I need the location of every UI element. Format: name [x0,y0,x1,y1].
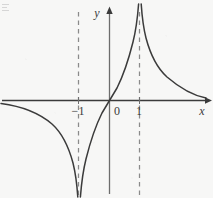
function-graph-figure: y x −1 0 1 [0,0,213,198]
origin-label: 0 [114,104,120,118]
axes-group [2,7,212,195]
y-axis-arrowhead [106,7,112,15]
x-axis-label: x [198,104,205,118]
xtick-label-plus-1: 1 [136,104,142,118]
y-axis-label: y [93,6,100,20]
xtick-label-minus-1: −1 [72,104,85,118]
curve-right-branch [141,4,206,98]
labels-group: y x −1 0 1 [72,6,206,118]
curve-left-branch [1,104,78,198]
